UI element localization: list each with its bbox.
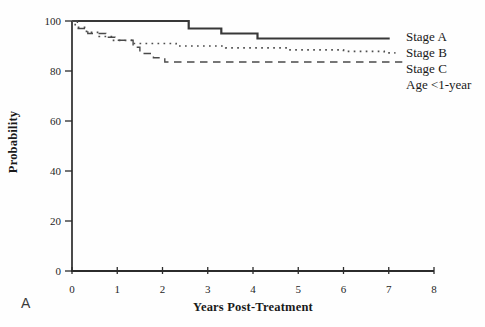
legend-label-stage-a: Stage A — [406, 29, 447, 45]
x-tick-label: 5 — [296, 283, 302, 295]
x-tick-label: 0 — [69, 283, 75, 295]
y-tick-label: 100 — [45, 15, 62, 27]
x-tick-label: 6 — [341, 283, 347, 295]
x-tick-label: 4 — [250, 283, 256, 295]
series-stage-c — [72, 21, 402, 62]
y-tick-label: 0 — [56, 265, 62, 277]
series-stage-b — [72, 21, 396, 53]
x-tick-label: 1 — [115, 283, 121, 295]
y-tick-label: 20 — [50, 215, 62, 227]
survival-figure: 020406080100012345678 Probability Years … — [0, 0, 485, 327]
x-tick-label: 7 — [386, 283, 392, 295]
x-tick-label: 8 — [431, 283, 437, 295]
y-axis-title: Probability — [6, 111, 21, 173]
legend-label-stage-b: Stage B — [406, 45, 447, 61]
legend-label-stage-c: Stage C — [406, 61, 447, 77]
x-axis-title: Years Post-Treatment — [72, 300, 434, 315]
y-tick-label: 80 — [50, 65, 62, 77]
y-tick-label: 60 — [50, 115, 62, 127]
x-tick-label: 2 — [160, 283, 166, 295]
legend-label-age-note: Age <1-year — [406, 77, 471, 93]
x-tick-label: 3 — [205, 283, 211, 295]
series-stage-a — [72, 21, 390, 39]
panel-letter: A — [21, 295, 30, 311]
y-tick-label: 40 — [50, 165, 62, 177]
